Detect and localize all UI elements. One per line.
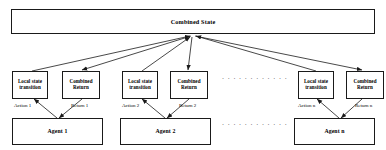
return-label-1: Return 1 (71, 103, 88, 108)
agent-label-n: Agent n (324, 128, 344, 135)
edge-return2-to-agent2 (167, 99, 189, 118)
agent-node-n: Agent n (294, 118, 375, 145)
local-state-transition-label-2: Local state transition (124, 79, 156, 91)
action-label-1: Action 1 (14, 103, 31, 108)
edge-local2-to-hub (142, 37, 190, 71)
agent-node-2: Agent 2 (120, 118, 211, 145)
edge-agentn-to-localn (317, 99, 339, 118)
agent-label-2: Agent 2 (156, 128, 176, 135)
edge-local1-to-hub (32, 36, 190, 71)
local-state-transition-node-n: Local state transition (298, 71, 334, 99)
ellipsis-lower: · · · · · · · · · · · · (222, 122, 288, 128)
combined-return-node-n: Combined Return (346, 71, 384, 99)
combined-return-label-2: Combined Return (172, 79, 206, 91)
edge-agent1-to-local1 (34, 99, 57, 118)
edge-return1-to-agent1 (59, 99, 82, 118)
action-label-2: Action 2 (122, 103, 139, 108)
combined-return-node-2: Combined Return (170, 71, 208, 99)
combined-return-node-1: Combined Return (62, 71, 100, 99)
combined-state-node: Combined State (11, 9, 375, 34)
multi-agent-combined-state-diagram: Combined State Local state transition Co… (0, 0, 386, 150)
ellipsis-upper: · · · · · · · · · · · · (222, 76, 288, 82)
return-label-2: Return 2 (179, 103, 196, 108)
action-label-n: Action n (298, 103, 315, 108)
edge-hub-to-return1 (82, 36, 191, 70)
edge-agent2-to-local2 (142, 99, 165, 118)
edge-hub-to-return2 (188, 37, 192, 70)
local-state-transition-label-n: Local state transition (300, 79, 332, 91)
combined-return-label-1: Combined Return (64, 79, 98, 91)
edge-hub-to-returnn (195, 36, 362, 70)
edge-localn-to-hub (196, 36, 316, 71)
combined-return-label-n: Combined Return (348, 79, 382, 91)
local-state-transition-node-1: Local state transition (12, 71, 48, 99)
local-state-transition-label-1: Local state transition (14, 79, 46, 91)
agent-label-1: Agent 1 (48, 128, 68, 135)
agent-node-1: Agent 1 (12, 118, 103, 145)
local-state-transition-node-2: Local state transition (122, 71, 158, 99)
combined-state-label: Combined State (171, 18, 216, 25)
edge-returnn-to-agentn (341, 99, 362, 118)
return-label-n: Return n (355, 103, 372, 108)
